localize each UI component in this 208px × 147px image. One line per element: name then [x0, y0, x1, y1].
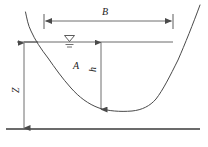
channel-cross-section-figure: B A h Z	[0, 0, 208, 147]
label-flow-depth-h: h	[88, 67, 98, 72]
label-top-width-B: B	[102, 7, 108, 17]
label-bank-height-Z: Z	[11, 87, 21, 93]
cross-section-drawing	[0, 0, 208, 147]
label-flow-area-A: A	[73, 61, 79, 71]
water-level-triangle-icon	[65, 36, 75, 48]
